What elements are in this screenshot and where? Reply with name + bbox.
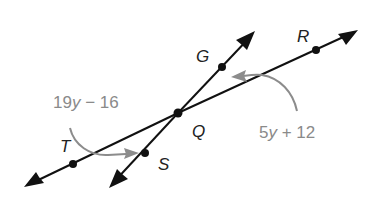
arrowhead-T-icon	[24, 172, 44, 187]
label-T: T	[60, 137, 72, 156]
line-SG	[109, 31, 255, 188]
angle-diagram: G R Q T S 19y − 16 5y + 12	[0, 0, 374, 206]
point-R	[312, 46, 320, 54]
label-S: S	[158, 155, 170, 174]
angle-expression-GQR: 5y + 12	[259, 123, 315, 142]
arrowhead-R-icon	[338, 30, 358, 45]
arrowhead-G-icon	[236, 31, 255, 50]
angle-expression-TQS: 19y − 16	[53, 93, 119, 112]
arrowhead-S-icon	[109, 169, 128, 188]
point-G	[218, 63, 226, 71]
label-R: R	[297, 27, 309, 46]
label-G: G	[196, 47, 209, 66]
point-T	[69, 160, 77, 168]
label-Q: Q	[192, 122, 205, 141]
point-S	[141, 149, 149, 157]
point-Q	[174, 109, 183, 118]
